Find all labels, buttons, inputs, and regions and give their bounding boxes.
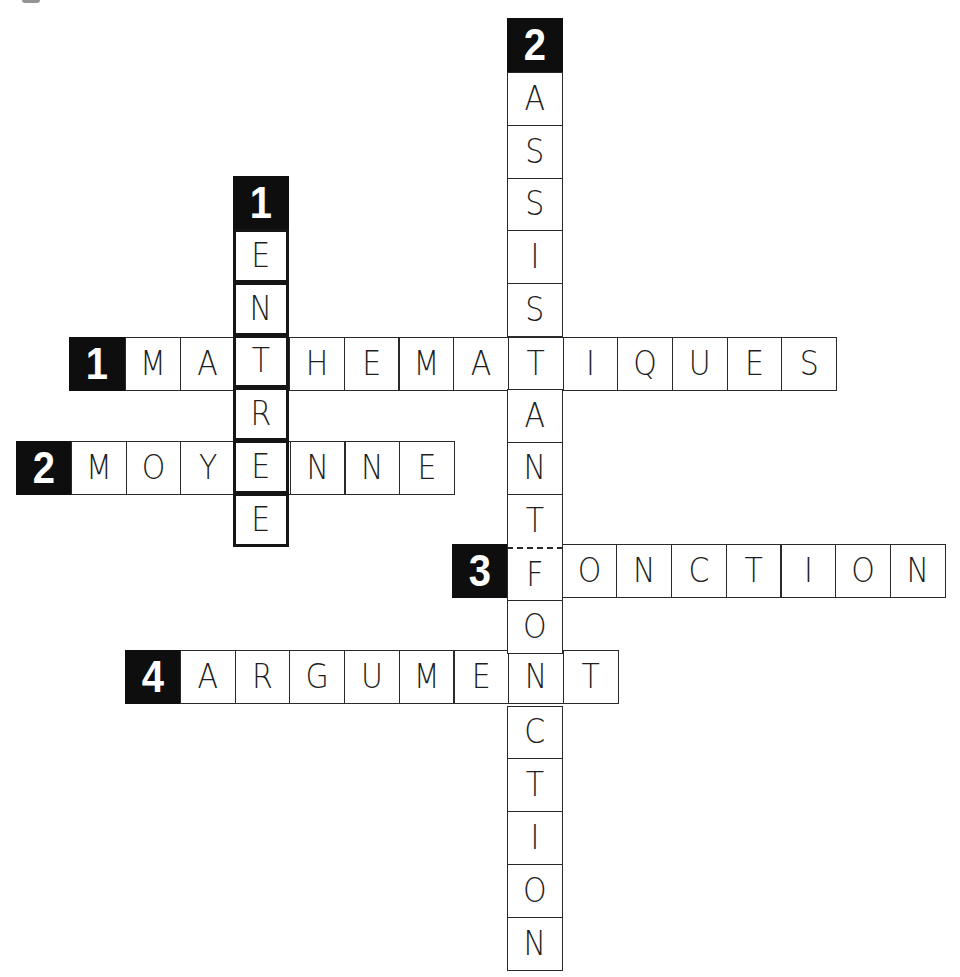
cell-letter: O [142, 451, 166, 484]
cell-letter: T [527, 347, 545, 380]
cell-h1-1[interactable]: M [125, 337, 181, 391]
clue-number: 4 [142, 655, 164, 699]
cell-h1-5[interactable]: E [344, 337, 400, 391]
cell-letter: I [530, 822, 539, 855]
cell-h1-6[interactable]: M [399, 337, 455, 391]
cell-h4-2[interactable]: R [235, 650, 291, 704]
cell-h4-5[interactable]: M [399, 650, 455, 704]
cell-letter: T [744, 554, 762, 587]
cell-h3-8[interactable]: N [890, 544, 946, 598]
cell-v1-5[interactable]: E [233, 440, 289, 494]
cell-v2-14[interactable]: T [507, 758, 563, 812]
cell-letter: E [472, 660, 491, 693]
cell-h4-4[interactable]: U [344, 650, 400, 704]
cell-v2-8[interactable]: N [507, 442, 563, 496]
cell-letter: C [524, 716, 545, 749]
cell-letter: T [252, 345, 270, 378]
cell-v1-4[interactable]: R [233, 387, 289, 441]
cell-h1-2[interactable]: A [180, 337, 236, 391]
clue-box-h4: 4 [125, 650, 181, 704]
cell-h1-4[interactable]: H [289, 337, 345, 391]
cell-h1-9[interactable]: I [563, 337, 619, 391]
cell-h3-4[interactable]: C [671, 544, 727, 598]
cell-v2-17[interactable]: N [507, 917, 563, 971]
cell-v2-3[interactable]: S [507, 178, 563, 232]
cell-letter: U [689, 347, 711, 380]
cell-h1-7[interactable]: A [453, 337, 509, 391]
cell-h2-1[interactable]: M [71, 441, 127, 495]
cell-v2-2[interactable]: S [507, 125, 563, 179]
cell-v2-11[interactable]: O [507, 600, 563, 654]
cell-v2-4[interactable]: I [507, 230, 563, 284]
cell-h2-6[interactable]: N [345, 441, 401, 495]
cell-h3-5[interactable]: T [726, 544, 782, 598]
cell-letter: Q [633, 347, 657, 380]
cell-letter: N [524, 452, 546, 485]
cell-letter: N [524, 927, 546, 960]
cell-v2-1[interactable]: A [507, 72, 563, 126]
cell-letter: N [907, 554, 929, 587]
cell-h4-8[interactable]: T [563, 650, 619, 704]
cell-v1-1[interactable]: E [233, 229, 289, 283]
clue-number: 1 [250, 181, 272, 225]
cell-letter: E [418, 451, 437, 484]
cell-letter: I [804, 554, 813, 587]
cell-letter: N [306, 451, 328, 484]
cell-letter: M [413, 347, 439, 380]
clue-number: 3 [469, 549, 491, 593]
clue-number: 2 [33, 446, 55, 490]
cell-v2-9[interactable]: T [507, 494, 563, 548]
cell-letter: S [525, 188, 544, 221]
cell-letter: M [140, 347, 166, 380]
cell-letter: R [250, 398, 271, 431]
cell-letter: O [523, 610, 547, 643]
clue-box-v2: 2 [507, 18, 563, 72]
cell-v2-7[interactable]: A [507, 389, 563, 443]
cell-h3-7[interactable]: O [835, 544, 891, 598]
cell-letter: E [362, 347, 381, 380]
cell-letter: F [526, 558, 543, 591]
cell-h1-12[interactable]: E [727, 337, 783, 391]
cell-v1-3[interactable]: T [233, 335, 289, 389]
cell-letter: Y [199, 451, 217, 484]
cell-letter: N [525, 660, 547, 693]
cell-v1-6[interactable]: E [233, 493, 289, 547]
cell-h2-3[interactable]: Y [180, 441, 236, 495]
cell-v1-2[interactable]: N [233, 282, 289, 336]
cell-letter: T [526, 769, 544, 802]
cell-v2-16[interactable]: O [507, 864, 563, 918]
cell-h2-2[interactable]: O [126, 441, 182, 495]
cell-v2-15[interactable]: I [507, 811, 563, 865]
cell-letter: S [800, 347, 819, 380]
cell-h2-5[interactable]: N [290, 441, 346, 495]
clue-box-h2: 2 [16, 441, 72, 495]
cell-v2-10[interactable]: F [507, 547, 563, 601]
cell-h1-13[interactable]: S [781, 337, 837, 391]
cell-h4-7[interactable]: N [508, 650, 564, 704]
cell-letter: G [306, 660, 329, 693]
cell-letter: E [251, 239, 270, 272]
cell-h1-10[interactable]: Q [617, 337, 673, 391]
cell-letter: I [530, 241, 539, 274]
cell-h2-7[interactable]: E [399, 441, 455, 495]
cell-letter: S [525, 135, 544, 168]
scan-smudge [22, 0, 40, 3]
cell-letter: E [251, 451, 270, 484]
cell-h1-8[interactable]: T [508, 337, 564, 391]
cell-v2-13[interactable]: C [507, 706, 563, 760]
cell-h1-11[interactable]: U [672, 337, 728, 391]
cell-letter: O [523, 874, 547, 907]
cell-h4-3[interactable]: G [289, 650, 345, 704]
crossword-grid: 1MATHEMATIQUES2MOYENNE3FONCTION4ARGUMENT… [0, 0, 960, 977]
cell-v2-5[interactable]: S [507, 283, 563, 337]
cell-h3-6[interactable]: I [781, 544, 837, 598]
cell-letter: T [526, 505, 544, 538]
cell-h3-3[interactable]: N [616, 544, 672, 598]
clue-box-v1: 1 [233, 176, 289, 230]
cell-h3-2[interactable]: O [562, 544, 618, 598]
cell-h4-6[interactable]: E [454, 650, 510, 704]
cell-letter: H [306, 347, 329, 380]
cell-letter: E [745, 347, 764, 380]
cell-letter: A [198, 660, 219, 693]
cell-h4-1[interactable]: A [180, 650, 236, 704]
